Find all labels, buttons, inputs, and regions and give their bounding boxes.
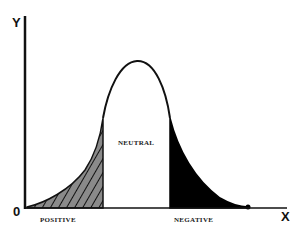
- y-axis-label: Y: [12, 15, 21, 30]
- negative-region: [170, 118, 248, 208]
- positive-region: [27, 118, 103, 208]
- origin-label: 0: [13, 204, 20, 219]
- neutral-curve: [103, 61, 170, 118]
- bell-curve-diagram: Y X 0 POSITIVE NEUTRAL NEGATIVE: [0, 0, 301, 237]
- negative-label: NEGATIVE: [174, 216, 213, 224]
- neutral-label: NEUTRAL: [118, 139, 154, 147]
- x-axis-label: X: [281, 209, 290, 224]
- positive-label: POSITIVE: [40, 216, 76, 224]
